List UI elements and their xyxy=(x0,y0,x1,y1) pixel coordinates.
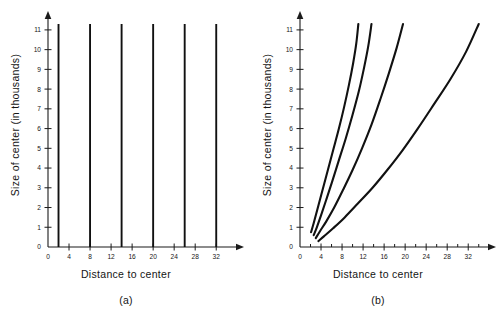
x-tick-label: 16 xyxy=(380,253,388,260)
y-tick-label: 9 xyxy=(37,66,41,73)
curves-b xyxy=(311,24,479,241)
y-tick-label: 10 xyxy=(286,46,294,53)
growth-curve xyxy=(314,24,372,235)
x-ticks-b: 048121620242832 xyxy=(298,244,472,260)
y-ticks-a: 01234567891011 xyxy=(34,26,52,250)
y-tick-label: 1 xyxy=(289,224,293,231)
panel-caption-a: (a) xyxy=(0,294,252,306)
y-tick-label: 9 xyxy=(289,66,293,73)
panel-caption-b: (b) xyxy=(252,294,504,306)
y-tick-label: 5 xyxy=(37,145,41,152)
y-tick-label: 5 xyxy=(289,145,293,152)
y-tick-label: 7 xyxy=(37,105,41,112)
y-tick-label: 3 xyxy=(289,184,293,191)
y-tick-label: 2 xyxy=(289,204,293,211)
x-tick-label: 12 xyxy=(359,253,367,260)
y-tick-label: 4 xyxy=(289,164,293,171)
growth-curve xyxy=(316,24,403,238)
x-tick-label: 4 xyxy=(67,253,71,260)
x-tick-label: 12 xyxy=(107,253,115,260)
panel-a: 01234567891011 048121620242832 Size of c… xyxy=(0,0,252,319)
x-tick-label: 0 xyxy=(46,253,50,260)
bars-a xyxy=(59,24,217,247)
x-tick-label: 32 xyxy=(213,253,221,260)
y-ticks-b: 01234567891011 xyxy=(286,26,304,250)
x-tick-label: 20 xyxy=(149,253,157,260)
growth-curve xyxy=(318,24,478,241)
x-axis-a xyxy=(48,244,244,251)
y-tick-label: 1 xyxy=(37,224,41,231)
x-axis-b xyxy=(300,244,496,251)
y-tick-label: 0 xyxy=(37,243,41,250)
y-tick-label: 11 xyxy=(286,26,293,33)
y-tick-label: 10 xyxy=(34,46,42,53)
x-tick-label: 20 xyxy=(401,253,409,260)
x-axis-label-b: Distance to center xyxy=(252,268,504,280)
y-tick-label: 3 xyxy=(37,184,41,191)
y-tick-label: 6 xyxy=(37,125,41,132)
x-tick-label: 16 xyxy=(128,253,136,260)
y-tick-label: 0 xyxy=(289,243,293,250)
y-tick-label: 11 xyxy=(34,26,41,33)
figure-container: 01234567891011 048121620242832 Size of c… xyxy=(0,0,504,319)
panel-b: 01234567891011 048121620242832 Size of c… xyxy=(252,0,504,319)
x-ticks-a: 048121620242832 xyxy=(46,244,220,260)
x-tick-label: 28 xyxy=(192,253,200,260)
x-tick-label: 28 xyxy=(444,253,452,260)
y-tick-label: 8 xyxy=(289,86,293,93)
y-tick-label: 2 xyxy=(37,204,41,211)
x-tick-label: 24 xyxy=(422,253,430,260)
x-tick-label: 8 xyxy=(340,253,344,260)
x-tick-label: 8 xyxy=(88,253,92,260)
y-tick-label: 8 xyxy=(37,86,41,93)
y-tick-label: 6 xyxy=(289,125,293,132)
x-tick-label: 0 xyxy=(298,253,302,260)
x-tick-label: 4 xyxy=(319,253,323,260)
y-tick-label: 7 xyxy=(289,105,293,112)
x-tick-label: 32 xyxy=(465,253,473,260)
growth-curve xyxy=(311,24,358,232)
x-axis-label-a: Distance to center xyxy=(0,268,252,280)
y-tick-label: 4 xyxy=(37,164,41,171)
x-tick-label: 24 xyxy=(170,253,178,260)
